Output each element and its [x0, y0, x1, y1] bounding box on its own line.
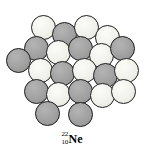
- isotope-numbers: 22 10: [61, 131, 68, 146]
- neutron-circle: [68, 102, 93, 127]
- isotope-figure: 22 10 Ne: [0, 0, 144, 155]
- atomic-number: 10: [61, 139, 68, 146]
- neutron-circle: [6, 48, 31, 73]
- nucleus-packing-diagram: [0, 0, 144, 132]
- element-symbol: Ne: [69, 133, 83, 145]
- neutron-circle: [35, 101, 60, 126]
- neutron-circle: [24, 79, 49, 104]
- isotope-label: 22 10 Ne: [0, 130, 144, 147]
- neutron-circle: [110, 36, 135, 61]
- proton-circle: [111, 79, 136, 104]
- neutron-circle: [68, 79, 93, 104]
